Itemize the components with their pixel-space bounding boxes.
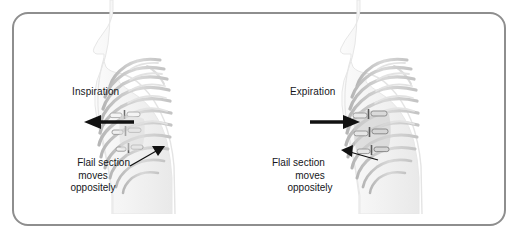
callout-line-2: moves: [272, 170, 348, 183]
callout-line-1: Flail section: [272, 157, 325, 168]
panel-expiration: Expiration Flail section moves oppositel…: [247, 0, 494, 214]
callout-line-3: oppositely: [56, 182, 130, 195]
callout-line-1: Flail section: [77, 157, 130, 168]
phase-label-expiration: Expiration: [290, 86, 335, 97]
callout-line-2: moves: [56, 170, 130, 183]
flail-segment: [353, 109, 391, 155]
body-silhouette: [340, 0, 422, 214]
callout-flail-left: Flail section moves oppositely: [56, 157, 130, 195]
illustration-stage: Inspiration Flail section moves opposite…: [0, 0, 522, 242]
panel-inspiration: Inspiration Flail section moves opposite…: [0, 0, 247, 214]
callout-flail-right: Flail section moves oppositely: [272, 157, 348, 195]
phase-label-inspiration: Inspiration: [72, 86, 119, 97]
callout-line-3: oppositely: [272, 182, 348, 195]
